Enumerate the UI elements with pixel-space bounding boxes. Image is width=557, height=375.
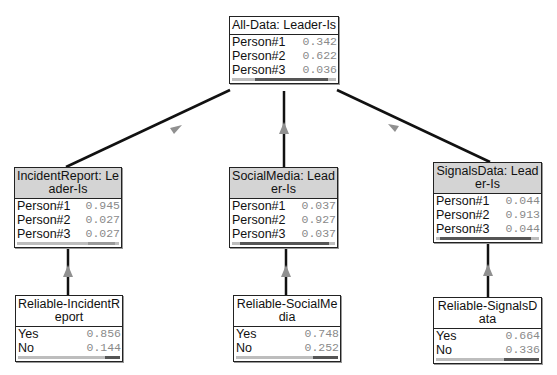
state-label: Person#1 [17, 199, 71, 213]
node-incident-report[interactable]: IncidentReport: Leader-Is Person#10.945 … [14, 167, 122, 248]
state-row: Person#30.037 [230, 227, 337, 241]
state-row: No0.336 [434, 343, 541, 357]
arrow-head-icon [63, 265, 73, 277]
belief-bar [232, 78, 336, 81]
state-row: Yes0.856 [16, 327, 122, 341]
state-label: Person#3 [232, 63, 286, 77]
state-row: Yes0.664 [434, 329, 541, 343]
state-row: No0.252 [234, 341, 340, 355]
node-reliable-signals-data[interactable]: Reliable-SignalsData Yes0.664 No0.336 [433, 297, 542, 364]
state-label: Yes [436, 329, 456, 343]
state-row: Person#10.044 [434, 194, 541, 208]
node-reliable-incident-report[interactable]: Reliable-IncidentReport Yes0.856 No0.144 [15, 295, 123, 362]
edge-signals-to-alldata [337, 90, 490, 162]
state-row: Person#30.044 [434, 222, 541, 236]
node-title: IncidentReport: Leader-Is [15, 168, 121, 199]
state-label: Person#2 [232, 213, 286, 227]
state-row: Person#10.945 [15, 199, 121, 213]
state-label: Person#3 [436, 222, 490, 236]
state-row: Person#10.342 [230, 35, 338, 49]
state-label: No [18, 341, 34, 355]
state-row: Person#10.037 [230, 199, 337, 213]
state-label: Person#2 [232, 49, 286, 63]
node-all-data[interactable]: All-Data: Leader-Is Person#10.342 Person… [229, 16, 339, 84]
state-label: Person#3 [17, 227, 71, 241]
state-label: Person#3 [232, 227, 286, 241]
state-label: Person#2 [17, 213, 71, 227]
arrow-head-icon [388, 124, 399, 132]
state-label: No [236, 341, 252, 355]
node-social-media[interactable]: SocialMedia: Leader-Is Person#10.037 Per… [229, 167, 338, 248]
state-value: 0.144 [86, 341, 122, 355]
state-label: Person#1 [436, 194, 490, 208]
arrow-head-icon [170, 125, 182, 134]
state-value: 0.252 [304, 341, 340, 355]
node-title: SignalsData: Leader-Is [434, 163, 541, 194]
state-row: Person#20.913 [434, 208, 541, 222]
node-title: Reliable-IncidentReport [16, 296, 122, 327]
state-value: 0.748 [304, 327, 340, 341]
state-value: 0.027 [85, 227, 121, 241]
state-row: Person#20.027 [15, 213, 121, 227]
arrow-head-icon [281, 265, 291, 277]
state-value: 0.037 [301, 199, 337, 213]
state-row: Person#30.027 [15, 227, 121, 241]
belief-bar [232, 242, 335, 245]
arrow-head-icon [279, 122, 289, 134]
node-title: SocialMedia: Leader-Is [230, 168, 337, 199]
state-value: 0.856 [86, 327, 122, 341]
state-value: 0.027 [85, 213, 121, 227]
node-signals-data[interactable]: SignalsData: Leader-Is Person#10.044 Per… [433, 162, 542, 243]
arrow-head-icon [483, 264, 493, 276]
state-label: No [436, 343, 452, 357]
state-value: 0.336 [505, 343, 541, 357]
node-title: Reliable-SocialMedia [234, 296, 340, 327]
node-title: Reliable-SignalsData [434, 298, 541, 329]
state-label: Person#1 [232, 199, 286, 213]
state-label: Yes [236, 327, 256, 341]
state-value: 0.342 [302, 35, 338, 49]
state-row: Yes0.748 [234, 327, 340, 341]
belief-bar [436, 237, 539, 240]
belief-bar [18, 356, 120, 359]
edge-incident-to-alldata [66, 90, 230, 167]
node-reliable-social-media[interactable]: Reliable-SocialMedia Yes0.748 No0.252 [233, 295, 341, 362]
belief-bar [436, 358, 539, 361]
node-title: All-Data: Leader-Is [230, 17, 338, 35]
state-value: 0.927 [301, 213, 337, 227]
state-row: Person#20.927 [230, 213, 337, 227]
state-value: 0.945 [85, 199, 121, 213]
state-label: Person#2 [436, 208, 490, 222]
state-label: Yes [18, 327, 38, 341]
state-value: 0.037 [301, 227, 337, 241]
state-value: 0.664 [505, 329, 541, 343]
belief-bar [236, 356, 338, 359]
state-value: 0.913 [505, 208, 541, 222]
state-value: 0.622 [302, 49, 338, 63]
state-label: Person#1 [232, 35, 286, 49]
state-row: Person#20.622 [230, 49, 338, 63]
state-value: 0.044 [505, 222, 541, 236]
state-value: 0.044 [505, 194, 541, 208]
belief-bar [17, 242, 119, 245]
state-row: No0.144 [16, 341, 122, 355]
state-row: Person#30.036 [230, 63, 338, 77]
state-value: 0.036 [302, 63, 338, 77]
